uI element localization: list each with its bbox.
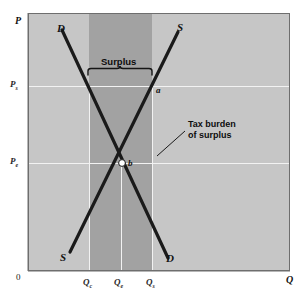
- tax-burden-leader-line: [157, 131, 185, 156]
- demand-curve-label-top: D: [57, 22, 65, 34]
- x-tick-qs-sub: s: [153, 283, 155, 289]
- y-tick-pe-sub: e: [16, 162, 19, 168]
- supply-curve-label-bottom: S: [60, 251, 66, 263]
- x-tick-qc-sub: c: [90, 283, 93, 289]
- surplus-brace: [88, 66, 152, 75]
- y-tick-ps-sub: s: [16, 85, 18, 91]
- supply-demand-surplus-figure: P Q 0 Ps Pe Qc Qe Qs D D S S a b Surplus…: [0, 0, 299, 300]
- tax-burden-line-2: of surplus: [188, 130, 236, 141]
- x-tick-qc: Qc: [83, 277, 92, 289]
- y-tick-pe: Pe: [10, 156, 18, 168]
- point-a-label: a: [156, 85, 161, 95]
- chart-vector-overlay: [0, 0, 299, 300]
- tax-burden-annotation: Tax burden of surplus: [188, 119, 236, 141]
- y-axis-label: P: [15, 15, 21, 26]
- x-tick-qe-sub: e: [121, 283, 124, 289]
- supply-curve-label-top: S: [177, 21, 183, 33]
- point-b-label: b: [128, 158, 133, 168]
- point-b-marker: [119, 160, 126, 167]
- surplus-label: Surplus: [101, 56, 136, 67]
- tax-burden-line-1: Tax burden: [188, 119, 236, 130]
- y-tick-ps: Ps: [10, 79, 18, 91]
- x-tick-qs: Qs: [146, 277, 155, 289]
- demand-curve-label-bottom: D: [166, 252, 174, 264]
- x-tick-qe: Qe: [114, 277, 123, 289]
- origin-label: 0: [16, 272, 21, 282]
- x-axis-label: Q: [286, 274, 293, 285]
